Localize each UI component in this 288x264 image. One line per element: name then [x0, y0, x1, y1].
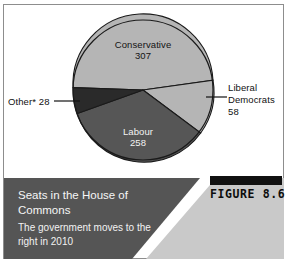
pie-label-labour-name: Labour: [88, 126, 188, 137]
pie-label-other: Other* 28: [8, 96, 50, 107]
pie-label-liberal-democrats-value: 58: [228, 106, 275, 118]
pie-label-liberal-democrats: Liberal Democrats 58: [228, 82, 275, 118]
pie-label-conservative: Conservative 307: [84, 39, 202, 61]
caption-title: Seats in the House of Commons: [18, 188, 168, 218]
pie-label-conservative-value: 307: [84, 50, 202, 61]
caption-subtitle: The government moves to the right in 201…: [18, 221, 168, 248]
caption-text-block: Seats in the House of Commons The govern…: [18, 188, 168, 248]
pie-label-conservative-name: Conservative: [84, 39, 202, 50]
pie-label-other-text: Other* 28: [8, 96, 50, 107]
figure-panel: Conservative 307 Labour 258 Other* 28 Li…: [0, 0, 288, 264]
pie-label-labour: Labour 258: [88, 126, 188, 148]
figure-number-bar: [210, 176, 282, 185]
pie-label-liberal-democrats-name-2: Democrats: [228, 94, 275, 106]
pie-chart: Conservative 307 Labour 258 Other* 28 Li…: [0, 0, 288, 178]
pie-label-liberal-democrats-name-1: Liberal: [228, 82, 275, 94]
figure-number-label: FIGURE 8.6: [210, 187, 284, 201]
pie-label-labour-value: 258: [88, 137, 188, 148]
figure-number-block: FIGURE 8.6: [210, 176, 284, 201]
